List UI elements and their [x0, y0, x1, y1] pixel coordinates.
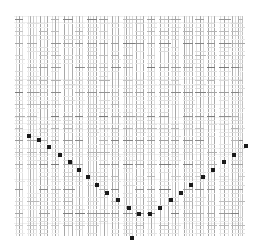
data-marker — [95, 183, 99, 187]
data-marker — [211, 168, 215, 172]
data-marker — [158, 206, 162, 210]
figure-container — [0, 0, 255, 250]
data-marker — [189, 183, 193, 187]
data-marker — [201, 175, 205, 179]
data-marker — [77, 168, 81, 172]
data-marker — [148, 212, 152, 216]
data-marker — [127, 206, 131, 210]
data-marker — [27, 134, 31, 138]
data-marker — [47, 145, 51, 149]
data-marker — [37, 138, 41, 142]
data-marker — [222, 160, 226, 164]
data-marker — [105, 191, 109, 195]
data-marker — [179, 191, 183, 195]
data-marker-outlier — [130, 236, 134, 240]
data-marker — [116, 198, 120, 202]
data-marker — [68, 160, 72, 164]
data-marker — [58, 153, 62, 157]
data-marker — [169, 198, 173, 202]
data-marker — [86, 175, 90, 179]
data-marker — [137, 212, 141, 216]
marker-layer — [0, 0, 255, 250]
data-marker — [244, 144, 248, 148]
data-marker — [232, 153, 236, 157]
